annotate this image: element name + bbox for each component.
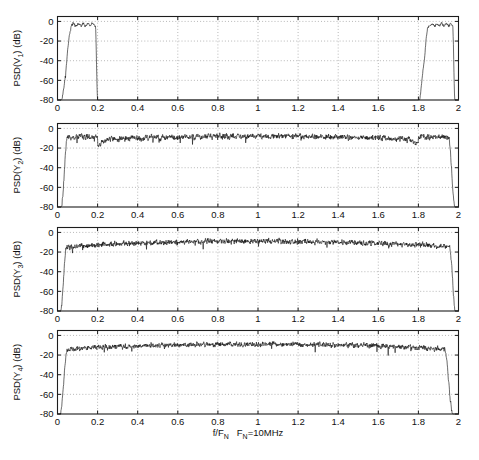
x-tick-label: 0.2 bbox=[91, 209, 104, 220]
x-tick-label: 0.2 bbox=[91, 313, 104, 324]
y-tick-label: 0 bbox=[48, 16, 53, 27]
x-tick-label: 1.8 bbox=[412, 209, 425, 220]
x-tick-label: 1.4 bbox=[332, 209, 345, 220]
x-tick-label: 1.8 bbox=[412, 416, 425, 427]
x-axis-note-tail: =10MHz bbox=[248, 427, 284, 438]
y-tick-label: 0 bbox=[48, 227, 53, 238]
x-tick-label: 0.6 bbox=[171, 102, 184, 113]
subplot-3: 0-20-40-60-80PSD(Y3) (dB)00.20.40.60.811… bbox=[11, 227, 461, 324]
y-tick-label: -40 bbox=[40, 369, 54, 380]
x-tick-label: 1.6 bbox=[372, 416, 385, 427]
x-tick-label: 0.4 bbox=[131, 416, 144, 427]
y-axis-label-2: PSD(Y2) (dB) bbox=[11, 137, 24, 194]
x-tick-label: 1.2 bbox=[291, 209, 304, 220]
y-tick-label: -60 bbox=[40, 286, 54, 297]
x-tick-label: 0.4 bbox=[131, 209, 144, 220]
y-tick-label: -20 bbox=[40, 142, 54, 153]
x-tick-label: 0.4 bbox=[131, 313, 144, 324]
y-tick-label: -80 bbox=[40, 201, 54, 212]
y-tick-label: -80 bbox=[40, 305, 54, 316]
x-tick-label: 1.4 bbox=[332, 313, 345, 324]
x-tick-label: 0.8 bbox=[211, 209, 224, 220]
x-axis-label: f/FN FN=10MHz bbox=[213, 427, 284, 440]
x-tick-label: 0 bbox=[55, 313, 60, 324]
y-axis-label-tail: ) (dB) bbox=[11, 137, 22, 161]
x-tick-label: 0.4 bbox=[131, 102, 144, 113]
x-tick-label: 1.6 bbox=[372, 313, 385, 324]
y-tick-label: -60 bbox=[40, 75, 54, 86]
y-axis-label-tail: ) (dB) bbox=[11, 344, 22, 368]
psd-figure: 0-20-40-60-80PSD(V1) (dB)00.20.40.60.811… bbox=[0, 0, 479, 460]
x-tick-label: 0.6 bbox=[171, 416, 184, 427]
x-tick-label: 0 bbox=[55, 209, 60, 220]
x-tick-label: 2 bbox=[456, 313, 461, 324]
x-tick-label: 0.2 bbox=[91, 416, 104, 427]
x-tick-label: 1.2 bbox=[291, 102, 304, 113]
y-tick-label: -40 bbox=[40, 266, 54, 277]
y-tick-label: 0 bbox=[48, 330, 53, 341]
x-tick-label: 0.8 bbox=[211, 416, 224, 427]
y-axis-label-tail: ) (dB) bbox=[11, 241, 22, 265]
x-tick-label: 0.6 bbox=[171, 209, 184, 220]
y-axis-label-head: PSD(Y bbox=[11, 268, 22, 298]
x-tick-label: 2 bbox=[456, 416, 461, 427]
y-axis-label-1: PSD(V1) (dB) bbox=[11, 30, 24, 87]
x-tick-label: 0.2 bbox=[91, 102, 104, 113]
y-axis-label-head: PSD(V bbox=[11, 57, 22, 87]
x-tick-label: 1.4 bbox=[332, 416, 345, 427]
y-tick-label: 0 bbox=[48, 123, 53, 134]
y-axis-label-4: PSD(Y4) (dB) bbox=[11, 344, 24, 401]
x-tick-label: 1.8 bbox=[412, 313, 425, 324]
y-axis-label-tail: ) (dB) bbox=[11, 30, 22, 54]
x-tick-label: 1.2 bbox=[291, 416, 304, 427]
psd-trace-2 bbox=[58, 133, 459, 207]
subplot-1: 0-20-40-60-80PSD(V1) (dB)00.20.40.60.811… bbox=[11, 16, 461, 113]
y-tick-label: -40 bbox=[40, 55, 54, 66]
x-axis-note-head: F bbox=[229, 427, 243, 438]
y-tick-label: -20 bbox=[40, 35, 54, 46]
x-tick-label: 1.6 bbox=[372, 209, 385, 220]
x-tick-label: 2 bbox=[456, 102, 461, 113]
x-tick-label: 0.8 bbox=[211, 102, 224, 113]
x-axis-label-head: f/F bbox=[213, 427, 224, 438]
x-tick-label: 1 bbox=[255, 416, 260, 427]
y-axis-label-head: PSD(Y bbox=[11, 164, 22, 194]
y-tick-label: -80 bbox=[40, 94, 54, 105]
y-axis-label-3: PSD(Y3) (dB) bbox=[11, 241, 24, 298]
x-tick-label: 1.8 bbox=[412, 102, 425, 113]
x-tick-label: 0 bbox=[55, 416, 60, 427]
x-tick-label: 1.2 bbox=[291, 313, 304, 324]
y-tick-label: -40 bbox=[40, 162, 54, 173]
x-tick-label: 1.4 bbox=[332, 102, 345, 113]
subplot-4: 0-20-40-60-80PSD(Y4) (dB)00.20.40.60.811… bbox=[11, 330, 461, 427]
x-tick-label: 1 bbox=[255, 102, 260, 113]
y-tick-label: -60 bbox=[40, 389, 54, 400]
psd-figure-canvas: 0-20-40-60-80PSD(V1) (dB)00.20.40.60.811… bbox=[0, 0, 479, 460]
y-axis-label-head: PSD(Y bbox=[11, 371, 22, 401]
y-tick-label: -20 bbox=[40, 246, 54, 257]
x-tick-label: 0.8 bbox=[211, 313, 224, 324]
x-tick-label: 1 bbox=[255, 209, 260, 220]
subplot-2: 0-20-40-60-80PSD(Y2) (dB)00.20.40.60.811… bbox=[11, 123, 461, 220]
x-tick-label: 1 bbox=[255, 313, 260, 324]
y-tick-label: -20 bbox=[40, 349, 54, 360]
y-tick-label: -80 bbox=[40, 408, 54, 419]
x-tick-label: 0 bbox=[55, 102, 60, 113]
x-tick-label: 2 bbox=[456, 209, 461, 220]
x-tick-label: 0.6 bbox=[171, 313, 184, 324]
x-tick-label: 1.6 bbox=[372, 102, 385, 113]
y-tick-label: -60 bbox=[40, 182, 54, 193]
